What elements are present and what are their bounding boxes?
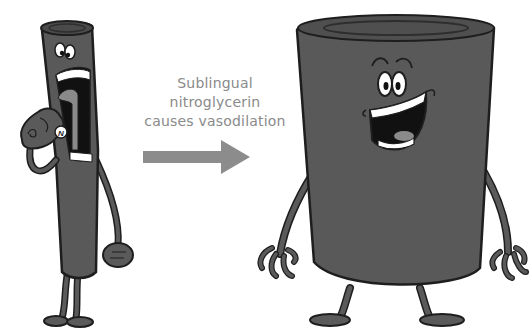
- wide-vessel-figure: [260, 15, 526, 326]
- svg-text:N: N: [58, 129, 64, 138]
- caption-line-2: nitroglycerin: [140, 93, 290, 112]
- illustration: N: [0, 0, 530, 336]
- arrow-icon: [143, 140, 250, 174]
- cartoon-scene: N: [0, 0, 530, 336]
- caption-line-1: Sublingual: [140, 74, 290, 93]
- caption-text: Sublingual nitroglycerin causes vasodila…: [140, 74, 290, 131]
- nitroglycerin-pill: N: [55, 126, 67, 138]
- narrow-vessel-figure: [21, 21, 133, 327]
- caption-line-3: causes vasodilation: [140, 112, 290, 131]
